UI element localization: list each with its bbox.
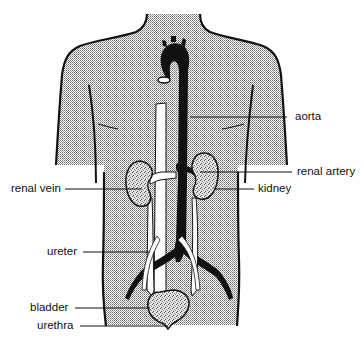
label-bladder: bladder — [30, 302, 68, 314]
label-renal-vein: renal vein — [11, 183, 61, 195]
left-kidney — [126, 161, 152, 206]
urinary-system-diagram: aorta renal artery renal vein kidney ure… — [0, 0, 364, 347]
label-urethra: urethra — [37, 320, 73, 332]
label-aorta: aorta — [295, 111, 321, 123]
label-renal-artery: renal artery — [297, 166, 355, 178]
vena-cava — [154, 103, 166, 300]
label-kidney: kidney — [258, 183, 291, 195]
label-ureter: ureter — [47, 246, 77, 258]
